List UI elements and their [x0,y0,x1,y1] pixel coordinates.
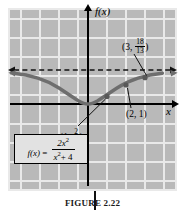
asymptote-dashed-line [8,67,177,74]
leader-point-2 [128,88,132,108]
formula-text: f(x) = 2x2x2+ 4 [27,136,74,163]
point-label-2: (2, 1) [126,110,147,120]
point-label-3: (3, 1813) [122,38,148,55]
figure-container: f(x) x (3, 1813) (2, 1) (1, 25) f(x) = 2… [0,0,185,210]
point-label-3-open: (3, [122,42,135,52]
formula-box: f(x) = 2x2x2+ 4 [14,134,88,164]
point-label-3-close: ) [145,42,148,52]
y-axis-label: f(x) [95,6,110,17]
figure-caption: FIGURE 2.22 [0,198,185,210]
curve-overlay [0,0,185,210]
formula-fraction: 2x2x2+ 4 [52,136,75,163]
point-label-3-fraction: 1813 [135,38,145,55]
formula-numerator-exponent: 2 [66,136,69,143]
marker-point-1 [104,94,109,99]
marker-point-3 [142,75,147,80]
formula-equals-sign: = [40,147,50,157]
formula-numerator-base: 2x [57,138,66,148]
formula-denominator-tail: + 4 [61,152,73,162]
formula-function-name: f(x) [27,147,40,157]
x-axis-label: x [166,106,171,117]
leader-point-3 [134,54,147,76]
function-curve [8,70,177,104]
formula-numerator: 2x2 [52,136,75,150]
formula-denominator: x2+ 4 [52,150,75,163]
point-label-3-denominator: 13 [135,47,145,55]
marker-point-2 [123,82,128,87]
